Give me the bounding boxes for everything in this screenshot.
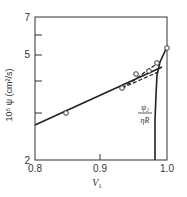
x-tick-label: 1.0 (160, 163, 174, 174)
data-point (64, 111, 69, 116)
y-tick-label: 5 (24, 49, 30, 60)
chart: 7 5 2 0.8 0.9 1.0 V1 10⁵ ψ (cm²/s) ψ₂ ηR (0, 0, 187, 197)
x-tick-label: 0.8 (28, 163, 42, 174)
data-point (147, 69, 152, 74)
x-tick-label: 0.9 (93, 163, 107, 174)
annotation-numerator: ψ₂ (141, 103, 149, 112)
y-axis-label: 10⁵ ψ (cm²/s) (4, 68, 14, 121)
data-point (120, 86, 125, 91)
x-axis-label: V1 (92, 177, 102, 190)
annotation-denominator: ηR (141, 116, 150, 125)
y-tick-label: 7 (24, 12, 30, 23)
series-dashed-lower (122, 72, 158, 88)
data-point (134, 72, 139, 77)
plot-frame (35, 17, 167, 160)
data-point (165, 46, 170, 51)
data-point (155, 61, 160, 66)
